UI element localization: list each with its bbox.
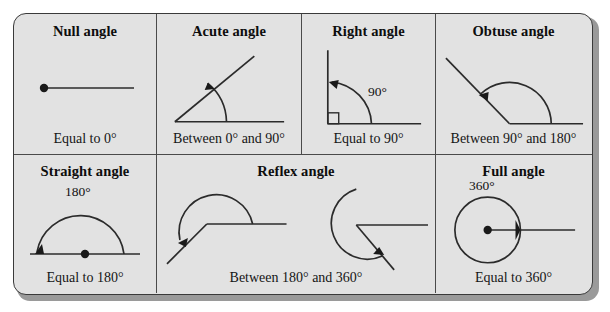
cell-obtuse-angle: Obtuse angle Between 90° and 180° — [435, 14, 591, 154]
obtuse-angle-diagram — [436, 42, 591, 134]
cell-title: Obtuse angle — [472, 23, 554, 40]
reflex-angle-diagrams — [157, 182, 435, 274]
cell-caption: Equal to 180° — [14, 270, 156, 286]
reflex-angle-diagram-b — [331, 189, 428, 270]
straight-angle-diagram: 180° — [14, 182, 156, 274]
full-angle-diagram: 360° — [436, 182, 591, 274]
cell-caption: Equal to 360° — [436, 270, 591, 286]
reflex-angle-diagram-a — [167, 195, 287, 264]
cell-title: Acute angle — [192, 23, 266, 40]
angles-table-figure: Null angle Equal to 0° Acute angle — [0, 0, 610, 312]
cell-right-angle: Right angle 90° Equal to 90° — [301, 14, 435, 154]
acute-angle-diagram — [157, 42, 301, 134]
cell-caption: Between 180° and 360° — [157, 270, 435, 286]
null-angle-diagram — [14, 42, 156, 134]
cell-caption: Between 90° and 180° — [436, 131, 591, 147]
cell-null-angle: Null angle Equal to 0° — [14, 14, 156, 154]
full-angle-value-label: 360° — [469, 178, 495, 194]
cell-straight-angle: Straight angle 180° Equal to 180° — [14, 154, 156, 293]
cell-title: Reflex angle — [257, 163, 334, 180]
cell-title: Null angle — [53, 23, 117, 40]
cell-caption: Equal to 90° — [302, 131, 435, 147]
cell-reflex-angle: Reflex angle — [156, 154, 435, 293]
cell-caption: Equal to 0° — [14, 131, 156, 147]
cell-acute-angle: Acute angle Between 0° and 90° — [156, 14, 301, 154]
table-row: Straight angle 180° Equal to 180° Reflex… — [14, 154, 592, 293]
cell-title: Straight angle — [41, 163, 130, 180]
table-frame: Null angle Equal to 0° Acute angle — [13, 13, 593, 295]
right-angle-value-label: 90° — [368, 84, 387, 100]
right-angle-diagram: 90° — [302, 42, 435, 134]
cell-title: Right angle — [332, 23, 404, 40]
cell-caption: Between 0° and 90° — [157, 131, 301, 147]
straight-angle-value-label: 180° — [65, 184, 91, 200]
cell-full-angle: Full angle 360° Equal to 360° — [435, 154, 591, 293]
table-row: Null angle Equal to 0° Acute angle — [14, 14, 592, 154]
